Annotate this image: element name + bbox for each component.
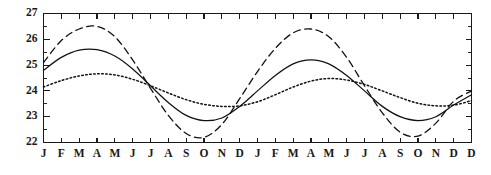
- y-tick-label: 25: [26, 58, 38, 70]
- x-tick-label: A: [93, 147, 102, 159]
- y-tick-label: 24: [26, 84, 38, 96]
- x-tick-label: J: [148, 147, 154, 159]
- x-tick-label: O: [200, 147, 209, 159]
- x-tick-label: A: [307, 147, 316, 159]
- x-tick-label: M: [74, 147, 85, 159]
- x-tick-label: A: [164, 147, 173, 159]
- y-axis-major-ticks: [44, 39, 472, 116]
- x-tick-label: J: [362, 147, 368, 159]
- y-axis-minor-ticks: [44, 26, 472, 129]
- y-tick-label: 22: [26, 135, 38, 147]
- x-tick-label: F: [58, 147, 65, 159]
- x-tick-label: S: [397, 147, 403, 159]
- x-tick-label: D: [450, 147, 458, 159]
- x-tick-label: J: [344, 147, 350, 159]
- x-tick-label: O: [414, 147, 423, 159]
- seasonal-cycle-line-chart: 222324252627 JFMAMJJASONDJFMAMJJASONDD: [0, 0, 491, 175]
- x-tick-label: S: [183, 147, 189, 159]
- x-tick-label: J: [255, 147, 261, 159]
- x-tick-label: N: [432, 147, 441, 159]
- x-axis-tick-labels: JFMAMJJASONDJFMAMJJASONDD: [41, 147, 476, 159]
- y-tick-label: 27: [26, 6, 38, 18]
- x-tick-label: M: [323, 147, 334, 159]
- x-tick-label: D: [236, 147, 244, 159]
- series-line-dashed: [44, 26, 472, 138]
- x-tick-label: D: [467, 147, 475, 159]
- x-tick-label: M: [288, 147, 299, 159]
- x-tick-label: J: [130, 147, 136, 159]
- x-tick-label: N: [218, 147, 227, 159]
- y-axis-tick-labels: 222324252627: [26, 6, 38, 147]
- y-tick-label: 26: [26, 32, 38, 44]
- series-line-solid: [44, 49, 472, 121]
- plot-frame: [44, 14, 472, 143]
- y-tick-label: 23: [26, 109, 38, 121]
- x-tick-label: A: [378, 147, 387, 159]
- x-axis-ticks: [61, 14, 453, 143]
- x-tick-label: F: [272, 147, 279, 159]
- x-tick-label: J: [41, 147, 47, 159]
- x-tick-label: M: [109, 147, 120, 159]
- chart-figure: 222324252627 JFMAMJJASONDJFMAMJJASONDD: [0, 0, 491, 175]
- data-series-group: [44, 26, 472, 138]
